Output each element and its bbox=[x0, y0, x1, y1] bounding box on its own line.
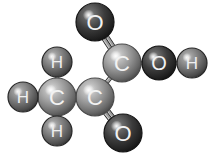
atom-label: H bbox=[17, 88, 29, 107]
atom-o2-o[interactable]: O bbox=[142, 46, 176, 80]
atom-h4-h[interactable]: H bbox=[42, 116, 72, 146]
atom-o1-o[interactable]: O bbox=[76, 3, 114, 41]
atom-h2-h[interactable]: H bbox=[8, 82, 38, 112]
atom-label: C bbox=[49, 85, 65, 110]
atom-o3-o[interactable]: O bbox=[104, 114, 142, 152]
atom-label: O bbox=[151, 52, 167, 74]
molecule-diagram: OCOHCOCHHH bbox=[0, 0, 212, 156]
atom-c2-c[interactable]: C bbox=[76, 78, 114, 116]
molecule-canvas: OCOHCOCHHH bbox=[0, 0, 212, 156]
atom-c3-c[interactable]: C bbox=[38, 78, 76, 116]
atom-label: H bbox=[51, 122, 63, 141]
atom-label: O bbox=[86, 10, 103, 35]
atom-label: H bbox=[186, 54, 198, 73]
atom-h3-h[interactable]: H bbox=[42, 47, 72, 77]
atom-label: C bbox=[87, 85, 103, 110]
atom-label: H bbox=[51, 53, 63, 72]
atom-c1-c[interactable]: C bbox=[103, 44, 141, 82]
atom-h1-h[interactable]: H bbox=[177, 48, 207, 78]
atom-layer: OCOHCOCHHH bbox=[8, 3, 207, 152]
atom-label: C bbox=[114, 51, 130, 76]
atom-label: O bbox=[114, 121, 131, 146]
